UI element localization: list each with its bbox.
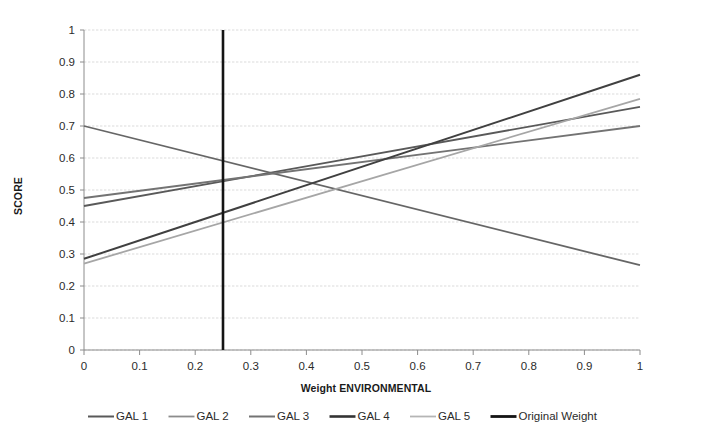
- x-tick-label: 0.5: [354, 360, 370, 372]
- x-tick-label: 0.3: [243, 360, 259, 372]
- x-tick-labels: 00.10.20.30.40.50.60.70.80.91: [81, 360, 643, 372]
- legend-label: GAL 5: [438, 410, 470, 422]
- y-tick-label: 0.9: [59, 56, 75, 68]
- chart-legend: GAL 1GAL 2GAL 3GAL 4GAL 5Original Weight: [88, 410, 598, 422]
- chart-container: 00.10.20.30.40.50.60.70.80.91 00.10.20.3…: [0, 0, 701, 448]
- x-tick-label: 0.7: [465, 360, 481, 372]
- legend-label: GAL 3: [277, 410, 309, 422]
- legend-label: GAL 4: [358, 410, 391, 422]
- x-axis: [84, 350, 640, 355]
- y-tick-label: 0.1: [59, 312, 75, 324]
- legend-item-gal-5[interactable]: GAL 5: [410, 410, 470, 422]
- x-tick-label: 1: [637, 360, 643, 372]
- series-line-gal-4: [84, 75, 640, 259]
- gridlines: [84, 30, 640, 350]
- x-tick-label: 0.2: [187, 360, 203, 372]
- legend-item-gal-2[interactable]: GAL 2: [169, 410, 229, 422]
- y-tick-label: 0.2: [59, 280, 75, 292]
- legend-item-original-weight[interactable]: Original Weight: [491, 410, 598, 422]
- x-tick-label: 0.1: [132, 360, 148, 372]
- series-line-gal-5: [84, 99, 640, 264]
- x-tick-label: 0: [81, 360, 87, 372]
- legend-item-gal-4[interactable]: GAL 4: [330, 410, 391, 422]
- y-axis: [80, 30, 84, 350]
- y-tick-label: 0.7: [59, 120, 75, 132]
- x-axis-title: Weight ENVIRONMENTAL: [301, 382, 432, 394]
- y-tick-marks: [80, 30, 84, 350]
- y-tick-label: 0.5: [59, 184, 75, 196]
- legend-item-gal-3[interactable]: GAL 3: [249, 410, 309, 422]
- legend-label: Original Weight: [519, 410, 598, 422]
- series-line-gal-2: [84, 126, 640, 265]
- y-tick-label: 0.4: [59, 216, 76, 228]
- y-tick-label: 0.8: [59, 88, 75, 100]
- legend-label: GAL 1: [116, 410, 148, 422]
- y-tick-labels: 00.10.20.30.40.50.60.70.80.91: [59, 24, 76, 356]
- y-tick-label: 1: [69, 24, 75, 36]
- legend-item-gal-1[interactable]: GAL 1: [88, 410, 148, 422]
- y-tick-label: 0.6: [59, 152, 75, 164]
- x-tick-marks: [84, 350, 640, 355]
- series-line-gal-3: [84, 126, 640, 198]
- x-tick-label: 0.8: [521, 360, 537, 372]
- line-chart: 00.10.20.30.40.50.60.70.80.91 00.10.20.3…: [0, 0, 701, 448]
- x-tick-label: 0.4: [298, 360, 315, 372]
- y-tick-label: 0: [69, 344, 75, 356]
- y-tick-label: 0.3: [59, 248, 75, 260]
- x-tick-label: 0.9: [576, 360, 592, 372]
- series-line-gal-1: [84, 107, 640, 206]
- x-tick-label: 0.6: [410, 360, 426, 372]
- legend-label: GAL 2: [197, 410, 229, 422]
- y-axis-title: SCORE: [12, 177, 24, 215]
